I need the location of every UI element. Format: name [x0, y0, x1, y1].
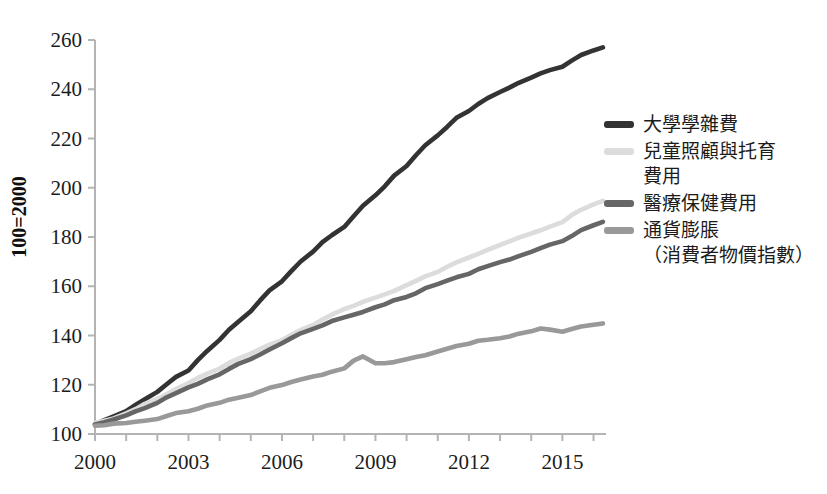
legend-item-label: 兒童照顧與托育 費用 [643, 139, 776, 189]
legend-swatch-icon [604, 121, 634, 128]
legend-item-label: 大學學雜費 [643, 112, 738, 137]
series-line [95, 222, 603, 425]
x-axis-tick-label: 2003 [167, 450, 209, 474]
y-axis-tick-label: 180 [51, 225, 83, 249]
legend-item-label: 醫療保健費用 [643, 191, 757, 216]
x-axis-tick-label: 2006 [261, 450, 303, 474]
y-axis-tick-label: 220 [51, 127, 83, 151]
x-axis-tick-label: 2009 [354, 450, 396, 474]
legend-item[interactable]: 醫療保健費用 [604, 191, 757, 216]
legend-swatch-icon [604, 200, 634, 207]
legend-item[interactable]: 兒童照顧與托育 費用 [604, 139, 776, 189]
legend-item[interactable]: 通貨膨脹 （消費者物價指數） [604, 218, 814, 268]
y-axis-tick-label: 100 [51, 422, 83, 446]
x-axis-tick-label: 2012 [448, 450, 490, 474]
y-axis-tick-label: 200 [51, 176, 83, 200]
y-axis-tick-label: 120 [51, 373, 83, 397]
y-axis-tick-label: 160 [51, 274, 83, 298]
x-axis-tick-label: 2000 [74, 450, 116, 474]
series-line [95, 201, 603, 423]
x-axis-tick-label: 2015 [541, 450, 583, 474]
y-axis-tick-label: 260 [51, 28, 83, 52]
legend-swatch-icon [604, 148, 634, 155]
y-axis-title: 100=2000 [8, 176, 30, 257]
y-axis-tick-label: 240 [51, 77, 83, 101]
series-line [95, 323, 603, 425]
legend-item-label: 通貨膨脹 （消費者物價指數） [643, 218, 814, 268]
chart-figure: 1001201401601802002202402602000200320062… [0, 0, 827, 494]
y-axis-tick-label: 140 [51, 324, 83, 348]
legend-item[interactable]: 大學學雜費 [604, 112, 738, 137]
legend-swatch-icon [604, 227, 634, 234]
